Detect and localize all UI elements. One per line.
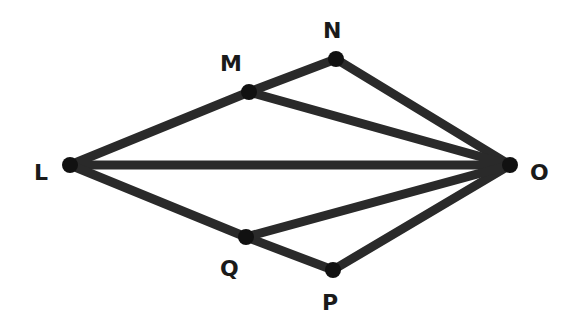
point-Q [238,229,254,245]
point-label-N: N [323,20,341,42]
point-N [328,51,344,67]
point-label-Q: Q [220,258,239,280]
point-label-M: M [220,53,242,75]
geometry-diagram: L M N O Q P [0,0,576,330]
segment-LM [70,92,249,165]
diagram-lines [0,0,576,330]
point-O [502,157,518,173]
segment-QO [246,165,510,237]
point-M [241,84,257,100]
point-L [62,157,78,173]
point-label-P: P [322,292,338,314]
segment-PO [333,165,510,270]
segment-QP [246,237,333,270]
point-P [325,262,341,278]
segment-LQ [70,165,246,237]
segment-NO [336,59,510,165]
point-label-L: L [34,162,48,184]
segment-MO [249,92,510,165]
point-label-O: O [530,162,549,184]
segment-MN [249,59,336,92]
